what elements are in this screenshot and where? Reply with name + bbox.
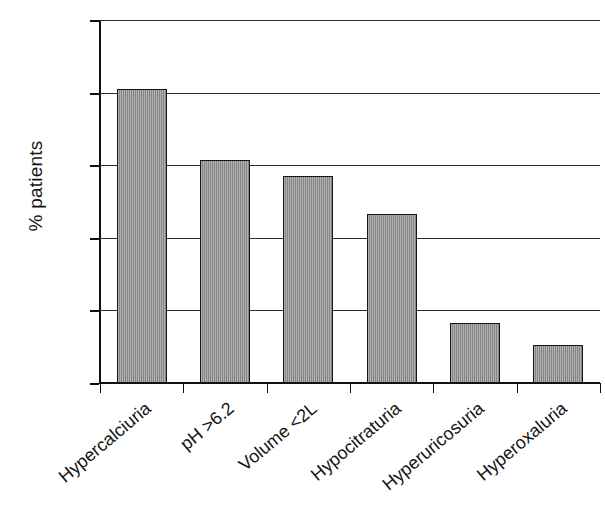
y-tick-mark-20 xyxy=(90,310,99,312)
bar-chart-figure: % patients 020406080100 HypercalciuriapH… xyxy=(0,0,605,513)
bar xyxy=(200,160,250,383)
y-axis-label: % patients xyxy=(25,116,47,256)
gridline-40 xyxy=(100,238,600,239)
plot-area xyxy=(100,20,600,383)
bar xyxy=(533,345,583,383)
x-tick-mark xyxy=(350,383,351,393)
gridline-100 xyxy=(100,20,600,21)
x-tick-mark xyxy=(517,383,518,393)
y-tick-mark-100 xyxy=(90,20,99,22)
y-tick-mark-60 xyxy=(90,165,99,167)
bar xyxy=(367,214,417,383)
y-tick-mark-40 xyxy=(90,238,99,240)
x-tick-mark xyxy=(433,383,434,393)
gridline-60 xyxy=(100,165,600,166)
y-tick-mark-0 xyxy=(90,383,99,385)
gridline-20 xyxy=(100,310,600,311)
x-tick-mark xyxy=(100,383,101,393)
bar xyxy=(117,89,167,383)
gridline-80 xyxy=(100,93,600,94)
bar xyxy=(450,323,500,383)
bar xyxy=(283,176,333,383)
x-tick-mark xyxy=(600,383,601,393)
y-tick-mark-80 xyxy=(90,93,99,95)
x-tick-mark xyxy=(267,383,268,393)
x-tick-mark xyxy=(183,383,184,393)
